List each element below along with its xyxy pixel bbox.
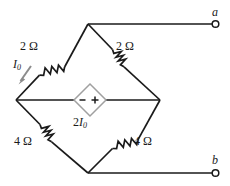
bridge-middle-branch: [16, 84, 160, 116]
resistor-label-bottom-right: 4 Ω: [134, 135, 152, 147]
resistor-symbol-top-left: [40, 65, 65, 75]
terminal-label-a: a: [212, 6, 218, 18]
terminal-node-a: [212, 21, 219, 28]
branch-top-right: [88, 24, 160, 100]
terminal-node-b: [212, 170, 219, 177]
resistor-label-top-left: 2 Ω: [20, 40, 38, 52]
wire-res-bl-to-bottom: [52, 142, 88, 173]
wire-bottom-to-res-br: [88, 149, 113, 174]
resistor-label-top-right: 2 Ω: [116, 40, 134, 52]
circuit-schematic-svg: [0, 0, 230, 186]
terminal-lead-a: [88, 21, 219, 28]
wire-res-tl-to-top: [65, 24, 88, 67]
current-subscript: 0: [17, 63, 21, 72]
wire-left-to-res-tl: [16, 75, 40, 100]
terminal-label-b: b: [212, 154, 218, 166]
source-subscript: 0: [83, 121, 87, 130]
current-label-i0: I0: [13, 58, 21, 72]
circuit-diagram: 2 Ω 2 Ω 4 Ω 4 Ω I0 2I0 a b: [0, 0, 230, 186]
wire-top-to-res-tr: [88, 24, 113, 50]
branch-top-left: [16, 24, 88, 100]
wire-res-tr-to-right: [124, 67, 160, 100]
terminal-lead-b: [88, 170, 219, 177]
dependent-source-diamond: [74, 84, 106, 116]
wire-left-to-res-bl: [16, 100, 40, 125]
resistor-symbol-bottom-left: [40, 125, 53, 142]
resistor-label-bottom-left: 4 Ω: [14, 135, 32, 147]
dependent-source-label: 2I0: [73, 116, 87, 130]
